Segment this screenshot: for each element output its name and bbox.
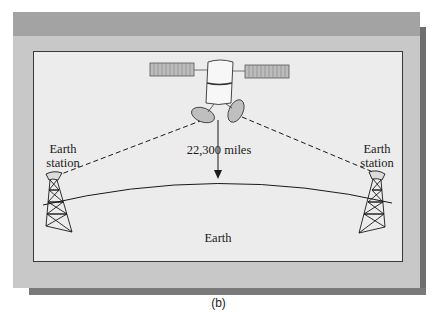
label-line: Earth: [352, 142, 402, 156]
earth-label: Earth: [195, 231, 241, 245]
altitude-label: 22,300 miles: [178, 143, 260, 157]
label-line: station: [38, 156, 88, 170]
label-line: station: [352, 156, 402, 170]
earth-station-tower-right: [359, 171, 385, 233]
earth-station-label-right: Earth station: [352, 142, 402, 170]
label-line: Earth: [38, 142, 88, 156]
earth-station-label-left: Earth station: [38, 142, 88, 170]
altitude-arrow-head: [214, 170, 222, 179]
satellite-icon: [150, 60, 289, 126]
earth-station-tower-left: [46, 172, 72, 232]
figure-caption: (b): [0, 296, 437, 310]
earth-surface-curve: [43, 183, 392, 205]
